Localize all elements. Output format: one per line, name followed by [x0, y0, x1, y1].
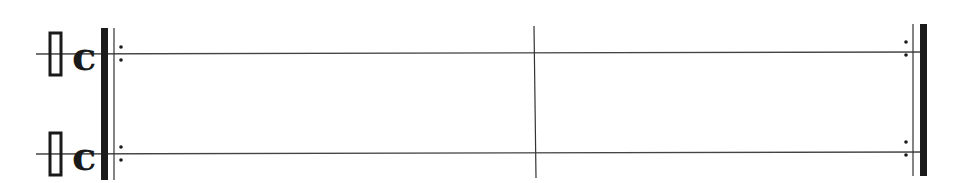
thick-barline [920, 24, 927, 176]
repeat-dot-icon [904, 153, 908, 157]
staff-2: c [36, 132, 924, 179]
thick-barline [101, 28, 108, 180]
score-canvas: c c [0, 0, 960, 183]
repeat-dot-icon [119, 58, 123, 62]
repeat-dot-icon [904, 140, 908, 144]
common-time-icon: c [72, 32, 96, 79]
staff-line [36, 52, 924, 54]
repeat-dot-icon [119, 158, 123, 162]
music-score: c c [0, 0, 960, 183]
common-time-icon: c [72, 132, 96, 179]
repeat-dot-icon [119, 45, 123, 49]
repeat-dot-icon [904, 40, 908, 44]
staff-line [36, 152, 924, 154]
end-repeat-barline [904, 24, 927, 176]
staff-1: c [36, 32, 924, 79]
repeat-dot-icon [119, 145, 123, 149]
start-repeat-barline [101, 28, 123, 180]
single-barline [534, 26, 536, 178]
repeat-dot-icon [904, 53, 908, 57]
